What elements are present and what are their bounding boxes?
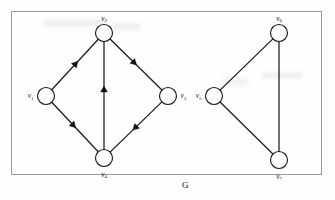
node-label-v2: v2: [101, 15, 107, 24]
figure-caption: G: [182, 180, 189, 190]
graph-node-v1: [38, 88, 55, 105]
graph-node-v4: [96, 150, 113, 167]
graph-node-v3: [160, 88, 177, 105]
node-label-v5: v5: [196, 92, 202, 101]
node-label-subscript-v2: 2: [104, 18, 107, 23]
edge-arrowhead-v4-v2: [101, 86, 108, 92]
graph-edge-v5-v6: [220, 39, 273, 90]
graph-drawing: v2v1v3v4v6v5v7: [0, 0, 335, 200]
node-label-subscript-v6: 6: [279, 18, 282, 23]
node-label-subscript-v1: 1: [31, 96, 34, 101]
graph-node-v6: [271, 25, 288, 42]
node-label-v4: v4: [101, 171, 107, 180]
node-label-subscript-v3: 3: [184, 96, 187, 101]
node-label-v7: v7: [276, 173, 282, 182]
node-label-subscript-v7: 7: [279, 176, 282, 181]
node-label-v6: v6: [276, 15, 282, 24]
node-label-subscript-v4: 4: [104, 174, 107, 179]
label-layer: v2v1v3v4v6v5v7: [28, 15, 283, 182]
node-label-v3: v3: [181, 92, 187, 101]
node-layer: [38, 25, 288, 169]
graph-node-v5: [206, 88, 223, 105]
figure-root: v2v1v3v4v6v5v7 G: [0, 0, 335, 200]
node-label-v1: v1: [28, 92, 34, 101]
graph-edge-v5-v7: [220, 102, 273, 154]
node-label-subscript-v5: 5: [199, 96, 202, 101]
graph-node-v2: [96, 25, 113, 42]
graph-node-v7: [271, 152, 288, 169]
